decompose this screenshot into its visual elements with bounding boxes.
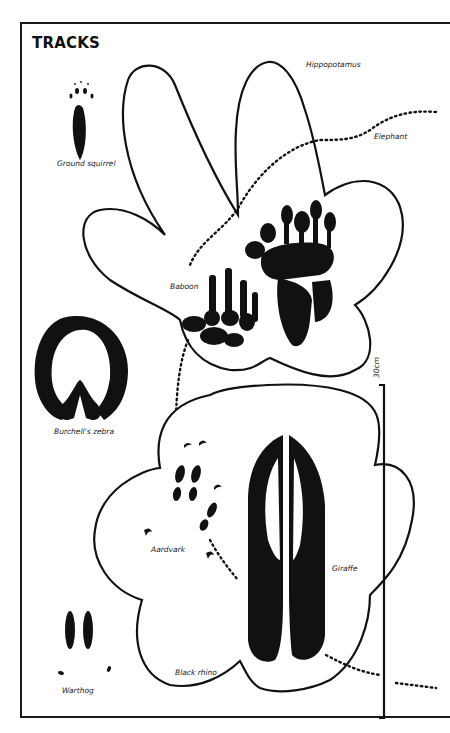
burchells-zebra-track [35,316,128,420]
label-elephant: Elephant [374,132,407,141]
label-giraffe: Giraffe [332,564,358,573]
label-warthog: Warthog [62,686,94,695]
label-hippopotamus: Hippopotamus [306,60,361,69]
ground-squirrel-track [70,81,94,160]
label-ground-squirrel: Ground squirrel [57,159,116,168]
label-burchells-zebra: Burchell's zebra [54,427,114,436]
scale-label: 30cm [372,357,381,378]
label-aardvark: Aardvark [151,545,185,554]
label-baboon: Baboon [170,282,198,291]
label-black-rhino: Black rhino [175,668,217,677]
warthog-track [58,611,112,676]
